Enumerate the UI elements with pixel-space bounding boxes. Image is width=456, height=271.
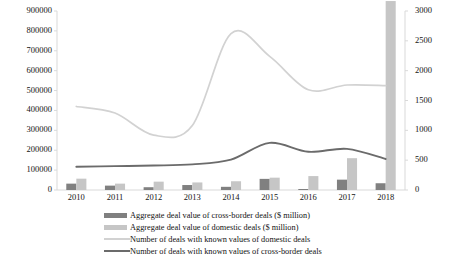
bar (105, 186, 115, 190)
bar (270, 178, 280, 190)
right-axis-tick-label: 0 (415, 185, 456, 194)
left-axis-tick-label: 200000 (2, 145, 52, 154)
bar (192, 182, 202, 190)
legend-label: Aggregate deal value of cross-border dea… (130, 210, 310, 221)
legend-swatch (104, 238, 130, 240)
legend-swatch (104, 250, 130, 252)
right-axis-tick-label: 500 (415, 155, 456, 164)
legend-item[interactable]: Aggregate deal value of cross-border dea… (104, 209, 404, 221)
x-axis-tick-label: 2010 (56, 193, 96, 202)
bar (221, 187, 231, 190)
legend-item[interactable]: Number of deals with known values of dom… (104, 233, 404, 245)
bar (144, 187, 154, 190)
bar (154, 182, 164, 190)
bar (76, 179, 86, 190)
legend-item[interactable]: Aggregate deal value of domestic deals (… (104, 221, 404, 233)
left-axis-tick-label: 800000 (2, 26, 52, 35)
x-axis-tick-label: 2013 (172, 193, 212, 202)
legend-swatch (104, 213, 127, 218)
left-axis-tick-label: 400000 (2, 105, 52, 114)
legend-swatch (104, 225, 127, 230)
bar (376, 183, 386, 190)
bar-series (76, 1, 395, 190)
x-axis-tick-label: 2014 (211, 193, 251, 202)
left-axis-tick-label: 0 (2, 185, 52, 194)
legend-label: Number of deals with known values of dom… (130, 234, 310, 245)
legend-bar-swatch-icon (104, 213, 130, 218)
right-axis-tick-label: 1500 (415, 96, 456, 105)
bar (298, 189, 308, 190)
x-axis-tick-label: 2018 (366, 193, 406, 202)
left-axis-tick-label: 600000 (2, 66, 52, 75)
x-axis-tick-label: 2017 (327, 193, 367, 202)
left-axis-tick-label: 700000 (2, 46, 52, 55)
chart-legend: Aggregate deal value of cross-border dea… (104, 209, 404, 257)
legend-line-swatch-icon (104, 238, 130, 240)
left-axis-tick-label: 100000 (2, 165, 52, 174)
legend-label: Number of deals with known values of cro… (130, 246, 322, 257)
bar (347, 158, 357, 190)
legend-bar-swatch-icon (104, 225, 130, 230)
legend-line-swatch-icon (104, 250, 130, 252)
x-axis-tick-label: 2016 (288, 193, 328, 202)
line-series (76, 143, 385, 167)
bar (182, 185, 192, 190)
bar (66, 184, 76, 190)
x-axis-tick-label: 2011 (95, 193, 135, 202)
right-axis-tick-label: 3000 (415, 6, 456, 15)
left-axis-tick-label: 500000 (2, 86, 52, 95)
bar (260, 179, 270, 190)
bar (337, 180, 347, 190)
legend-item[interactable]: Number of deals with known values of cro… (104, 245, 404, 257)
bar-series (66, 179, 385, 190)
right-axis-tick-label: 1000 (415, 125, 456, 134)
x-axis-tick-label: 2015 (250, 193, 290, 202)
chart-container: Aggregate deal value of cross-border dea… (0, 0, 456, 271)
line-series (76, 31, 385, 138)
legend-label: Aggregate deal value of domestic deals (… (130, 222, 298, 233)
left-axis-tick-label: 900000 (2, 6, 52, 15)
x-axis-tick-label: 2012 (134, 193, 174, 202)
left-axis-tick-label: 300000 (2, 125, 52, 134)
bar (231, 181, 241, 190)
right-axis-tick-label: 2500 (415, 36, 456, 45)
bar (308, 176, 318, 190)
right-axis-tick-label: 2000 (415, 66, 456, 75)
bar (386, 1, 396, 190)
bar (115, 184, 125, 190)
